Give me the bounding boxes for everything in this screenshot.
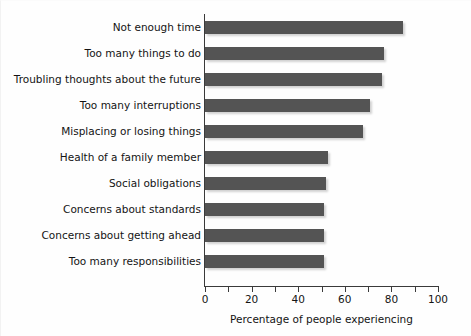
x-axis-title: Percentage of people experiencing [205,313,438,325]
bar-row: Too many things to do [205,41,438,67]
x-axis-tick-label: 20 [232,293,272,305]
bar [205,177,326,190]
bar-row: Concerns about getting ahead [205,223,438,249]
bar [205,151,328,164]
bar-category-label: Too many responsibilities [0,254,201,268]
x-axis-tick [252,286,253,292]
bar [205,21,403,34]
x-axis-tick [322,286,323,292]
bar-category-label: Troubling thoughts about the future [0,72,201,86]
x-axis-tick [438,286,439,292]
bar [205,255,324,268]
bar-chart-figure: Percentage of people experiencing Not en… [0,0,471,336]
bar [205,125,363,138]
x-axis-tick [228,286,229,292]
bar-category-label: Social obligations [0,176,201,190]
bar [205,203,324,216]
x-axis-tick-label: 100 [418,293,458,305]
bar-row: Concerns about standards [205,197,438,223]
bar-row: Not enough time [205,15,438,41]
x-axis-tick [275,286,276,292]
bar-category-label: Too many things to do [0,46,201,60]
bar-category-label: Misplacing or losing things [0,124,201,138]
bar-category-label: Too many interruptions [0,98,201,112]
x-axis-tick [298,286,299,292]
x-axis-tick [345,286,346,292]
bar-row: Misplacing or losing things [205,119,438,145]
bar [205,229,324,242]
bar-row: Troubling thoughts about the future [205,67,438,93]
bar-category-label: Concerns about standards [0,202,201,216]
x-axis-tick-label: 60 [325,293,365,305]
bar-category-label: Health of a family member [0,150,201,164]
bar-row: Too many interruptions [205,93,438,119]
bar [205,73,382,86]
bar-category-label: Concerns about getting ahead [0,228,201,242]
x-axis-tick [368,286,369,292]
bar [205,99,370,112]
x-axis-tick-label: 40 [278,293,318,305]
bar-row: Health of a family member [205,145,438,171]
bar-category-label: Not enough time [0,20,201,34]
x-axis-tick [415,286,416,292]
bar [205,47,384,60]
x-axis-tick [391,286,392,292]
bar-row: Too many responsibilities [205,249,438,275]
bar-row: Social obligations [205,171,438,197]
x-axis-tick-label: 80 [371,293,411,305]
x-axis-tick-label: 0 [185,293,225,305]
x-axis-tick [205,286,206,292]
